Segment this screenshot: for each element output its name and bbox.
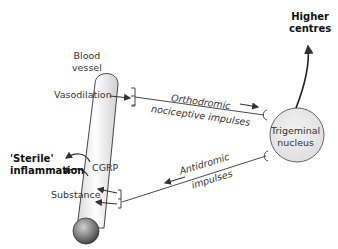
higher-centres-line1: Higher bbox=[289, 11, 331, 23]
higher-centres-arrow bbox=[296, 46, 308, 108]
substance-label: Substance bbox=[51, 189, 101, 201]
cgrp-label: CGRP bbox=[92, 162, 118, 174]
sterile-inflammation-label: 'Sterile' inflammation bbox=[10, 153, 85, 177]
trigeminal-line2: nucleus bbox=[271, 137, 320, 149]
higher-centres-line2: centres bbox=[289, 23, 331, 35]
blood-vessel-label: Blood vessel bbox=[72, 50, 102, 74]
sterile-line2: inflammation bbox=[10, 165, 85, 177]
sterile-line1: 'Sterile' bbox=[10, 153, 85, 165]
diagram-canvas: Blood vessel Vasodilation Higher centres… bbox=[0, 0, 338, 249]
vasodilation-label: Vasodilation bbox=[54, 89, 112, 101]
higher-centres-label: Higher centres bbox=[289, 11, 331, 35]
blood-vessel-label-line2: vessel bbox=[72, 62, 102, 74]
antidromic-arrow bbox=[165, 177, 185, 183]
blood-vessel-label-line1: Blood bbox=[72, 50, 102, 62]
trigeminal-line1: Trigeminal bbox=[271, 125, 320, 137]
trigeminal-nucleus-label: Trigeminal nucleus bbox=[271, 125, 320, 149]
orthodromic-arrow bbox=[240, 104, 258, 107]
